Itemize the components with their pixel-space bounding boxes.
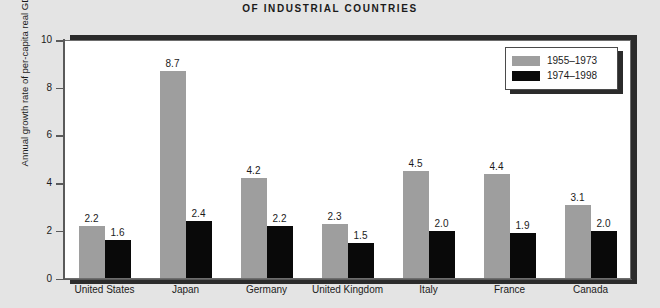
y-tick-label-4: 4 bbox=[46, 177, 52, 188]
y-tick-0: 0 bbox=[56, 279, 64, 281]
chart-legend: 1955–1973 1974–1998 bbox=[505, 47, 618, 90]
bar-united-kingdom-1955-1973: 2.3 bbox=[322, 224, 348, 279]
y-tick-10: 10 bbox=[56, 40, 64, 42]
y-tick-2: 2 bbox=[56, 231, 64, 233]
y-tick-label-0: 0 bbox=[46, 273, 52, 284]
bar-value-label: 3.1 bbox=[571, 192, 585, 203]
legend-entry-0: 1955–1973 bbox=[512, 53, 611, 68]
category-label-japan: Japan bbox=[172, 284, 199, 295]
bar-value-label: 1.5 bbox=[354, 230, 368, 241]
category-label-canada: Canada bbox=[573, 284, 608, 295]
bar-value-label: 2.2 bbox=[273, 213, 287, 224]
category-label-united-states: United States bbox=[74, 284, 134, 295]
bar-canada-1955-1973: 3.1 bbox=[565, 205, 591, 279]
bar-value-label: 4.2 bbox=[247, 165, 261, 176]
legend-label-1974-1998: 1974–1998 bbox=[547, 70, 597, 81]
y-tick-label-8: 8 bbox=[46, 82, 52, 93]
category-label-germany: Germany bbox=[246, 284, 287, 295]
category-label-united-kingdom: United Kingdom bbox=[312, 284, 383, 295]
bar-france-1974-1998: 1.9 bbox=[510, 233, 536, 278]
bar-united-states-1955-1973: 2.2 bbox=[79, 226, 105, 278]
bar-france-1955-1973: 4.4 bbox=[484, 174, 510, 279]
bar-germany-1955-1973: 4.2 bbox=[241, 178, 267, 278]
bar-value-label: 2.0 bbox=[597, 218, 611, 229]
x-axis-line bbox=[63, 279, 632, 281]
y-axis-line bbox=[63, 39, 65, 280]
y-tick-8: 8 bbox=[56, 88, 64, 90]
bar-italy-1955-1973: 4.5 bbox=[403, 171, 429, 278]
bar-value-label: 2.0 bbox=[435, 218, 449, 229]
y-tick-label-10: 10 bbox=[41, 34, 52, 45]
bar-canada-1974-1998: 2.0 bbox=[591, 231, 617, 279]
bar-united-states-1974-1998: 1.6 bbox=[105, 240, 131, 278]
bar-japan-1955-1973: 8.7 bbox=[160, 71, 186, 278]
bar-value-label: 1.9 bbox=[516, 220, 530, 231]
bar-value-label: 4.5 bbox=[409, 158, 423, 169]
bar-united-kingdom-1974-1998: 1.5 bbox=[348, 243, 374, 279]
chart-title: OF INDUSTRIAL COUNTRIES bbox=[0, 3, 660, 14]
legend-swatch-icon-1974-1998 bbox=[512, 71, 540, 81]
y-tick-6: 6 bbox=[56, 135, 64, 137]
bar-italy-1974-1998: 2.0 bbox=[429, 231, 455, 279]
bar-value-label: 8.7 bbox=[166, 58, 180, 69]
bar-value-label: 2.4 bbox=[192, 208, 206, 219]
y-tick-label-6: 6 bbox=[46, 129, 52, 140]
bar-japan-1974-1998: 2.4 bbox=[186, 221, 212, 278]
bar-value-label: 1.6 bbox=[111, 227, 125, 238]
bar-value-label: 2.2 bbox=[85, 213, 99, 224]
y-tick-label-2: 2 bbox=[46, 225, 52, 236]
bar-value-label: 2.3 bbox=[328, 211, 342, 222]
bar-germany-1974-1998: 2.2 bbox=[267, 226, 293, 278]
legend-label-1955-1973: 1955–1973 bbox=[547, 55, 597, 66]
category-label-italy: Italy bbox=[419, 284, 437, 295]
y-tick-4: 4 bbox=[56, 183, 64, 185]
legend-entry-1: 1974–1998 bbox=[512, 68, 611, 83]
category-label-france: France bbox=[494, 284, 525, 295]
legend-swatch-icon-1955-1973 bbox=[512, 56, 540, 66]
y-axis-title: Annual growth rate of per-capita real GD… bbox=[19, 0, 31, 178]
bar-value-label: 4.4 bbox=[490, 161, 504, 172]
